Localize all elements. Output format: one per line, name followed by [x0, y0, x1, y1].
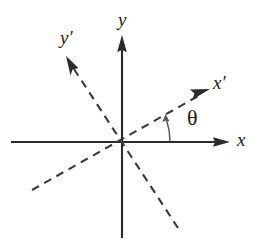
x-prime-axis-label: x′ [213, 73, 226, 92]
coordinate-axes-figure: y y′ x′ x θ [0, 0, 263, 251]
axes-diagram-svg [0, 0, 263, 251]
y-axis-arrowhead [117, 35, 127, 52]
x-axis-arrowhead [213, 137, 230, 147]
y-prime-axis-line [72, 66, 178, 228]
y-axis-label: y [118, 10, 126, 29]
y-prime-axis-label: y′ [60, 28, 73, 47]
theta-angle-arc [167, 120, 171, 141]
x-axis-label: x [237, 130, 245, 149]
theta-angle-arrowhead [162, 114, 169, 122]
theta-angle-label: θ [187, 107, 198, 129]
